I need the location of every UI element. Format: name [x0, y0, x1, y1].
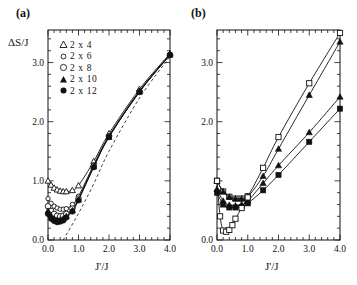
figure-root: (a) (b) ΔS/J J'/J J'/J 2 x 4 2 x 6 2 x 8 — [0, 0, 357, 285]
x-tick-label: 3.0 — [303, 244, 315, 254]
legend-item-2x8: 2 x 8 — [57, 62, 97, 74]
legend-item-2x10: 2 x 10 — [57, 74, 97, 86]
filled-triangle-icon — [57, 75, 70, 84]
x-tick-label: 1.0 — [242, 244, 254, 254]
legend-item-2x12: 2 x 12 — [57, 85, 97, 97]
legend-item-2x6: 2 x 6 — [57, 51, 97, 63]
y-tick-label: 0.0 — [22, 235, 44, 245]
legend-label: 2 x 4 — [70, 40, 92, 50]
legend-label: 2 x 6 — [70, 51, 92, 61]
y-tick-label: 3.0 — [191, 58, 213, 68]
legend-item-2x4: 2 x 4 — [57, 39, 97, 51]
x-tick-label: 1.0 — [73, 244, 85, 254]
panel-a-plot — [0, 0, 357, 285]
panel-a-x-axis-title: J'/J — [95, 260, 109, 272]
legend-label: 2 x 10 — [70, 74, 97, 84]
x-tick-label: 0.0 — [42, 244, 54, 254]
x-tick-label: 4.0 — [334, 244, 346, 254]
legend: 2 x 4 2 x 6 2 x 8 2 x 10 2 x 12 — [57, 39, 97, 97]
y-tick-label: 3.0 — [22, 58, 44, 68]
y-tick-label: 1.0 — [22, 176, 44, 186]
open-triangle-icon — [57, 40, 70, 49]
open-circle-small-icon — [57, 52, 70, 61]
x-tick-label: 2.0 — [103, 244, 115, 254]
y-tick-label: 2.0 — [191, 117, 213, 127]
panel-a-y-axis-title: ΔS/J — [8, 36, 29, 48]
x-tick-label: 4.0 — [164, 244, 176, 254]
x-tick-label: 0.0 — [211, 244, 223, 254]
panel-b-label: (b) — [191, 6, 206, 21]
filled-circle-icon — [57, 86, 70, 95]
x-tick-label: 2.0 — [273, 244, 285, 254]
y-tick-label: 2.0 — [22, 117, 44, 127]
legend-label: 2 x 8 — [70, 63, 92, 73]
panel-b-x-axis-title: J'/J — [265, 260, 279, 272]
open-circle-icon — [57, 63, 70, 72]
y-tick-label: 0.0 — [191, 235, 213, 245]
panel-a-label: (a) — [16, 6, 30, 21]
x-tick-label: 3.0 — [134, 244, 146, 254]
legend-label: 2 x 12 — [70, 86, 97, 96]
